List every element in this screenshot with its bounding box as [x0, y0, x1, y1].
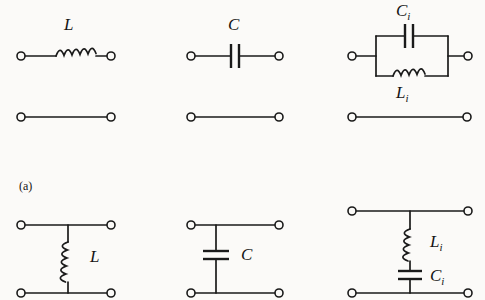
shunt-inductor-label: L	[90, 248, 99, 265]
terminal-dot	[187, 52, 195, 60]
shunt-inductor-symbol	[17, 221, 115, 297]
shunt-capacitor-symbol	[187, 221, 283, 297]
series-inductor-symbol	[17, 48, 115, 60]
terminal-dot	[107, 289, 115, 297]
terminal-dot	[17, 52, 25, 60]
terminal-dot	[275, 113, 283, 121]
branch-capacitor-label: Ci	[430, 267, 444, 287]
terminal-dot	[107, 52, 115, 60]
shunt-capacitor-label: C	[241, 246, 252, 263]
terminal-dot	[17, 221, 25, 229]
series-capacitor-label: C	[228, 16, 239, 33]
series-capacitor-return-wire	[187, 113, 283, 121]
terminal-dot	[17, 113, 25, 121]
terminal-dot	[348, 113, 356, 121]
terminal-dot	[107, 221, 115, 229]
terminal-dot	[463, 113, 471, 121]
terminal-dot	[348, 207, 356, 215]
terminal-dot	[275, 289, 283, 297]
series-inductor-label: L	[64, 16, 73, 33]
terminal-dot	[348, 52, 356, 60]
circuit-figure: L C Ci Li (a) L C Li Ci	[0, 0, 485, 300]
series-inductor-return-wire	[17, 113, 115, 121]
terminal-dot	[464, 52, 472, 60]
terminal-dot	[107, 113, 115, 121]
terminal-dot	[464, 289, 472, 297]
tank-inductor-label: Li	[396, 84, 409, 104]
series-capacitor-symbol	[187, 44, 283, 68]
terminal-dot	[187, 113, 195, 121]
parallel-lc-tank-symbol	[348, 24, 472, 76]
series-lc-branch-symbol	[348, 207, 472, 297]
terminal-dot	[17, 289, 25, 297]
terminal-dot	[348, 289, 356, 297]
terminal-dot	[187, 221, 195, 229]
parallel-lc-return-wire	[348, 113, 471, 121]
terminal-dot	[187, 289, 195, 297]
branch-inductor-label: Li	[430, 233, 443, 253]
terminal-dot	[464, 207, 472, 215]
terminal-dot	[275, 52, 283, 60]
figure-caption: (a)	[19, 180, 32, 192]
terminal-dot	[275, 221, 283, 229]
tank-capacitor-label: Ci	[396, 2, 410, 22]
